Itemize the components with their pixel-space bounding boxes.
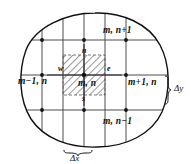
node-label-m-plus-1-n: m+1, n (128, 78, 157, 88)
dimension-label-delta-x: Δx (70, 154, 79, 163)
node-marker (82, 108, 86, 112)
node-marker (82, 38, 86, 42)
face-label-east: e (107, 65, 111, 73)
figure-canvas: m, n+1 m−1, n m, n m+1, n m, n−1 n w e s… (0, 0, 191, 164)
face-label-south: s (82, 95, 85, 103)
node-label-m-minus-1-n: m−1, n (18, 77, 47, 87)
face-label-west: w (58, 65, 63, 73)
node-marker (124, 38, 128, 42)
node-label-m-n: m, n (78, 79, 96, 89)
node-marker (124, 108, 128, 112)
node-marker (40, 38, 44, 42)
node-marker-center (82, 73, 86, 77)
face-label-north: n (82, 47, 86, 55)
node-label-m-n-plus-1: m, n+1 (103, 26, 132, 36)
dimension-label-delta-y: Δy (174, 84, 183, 93)
node-label-m-n-minus-1: m, n−1 (103, 117, 132, 127)
node-marker (40, 108, 44, 112)
